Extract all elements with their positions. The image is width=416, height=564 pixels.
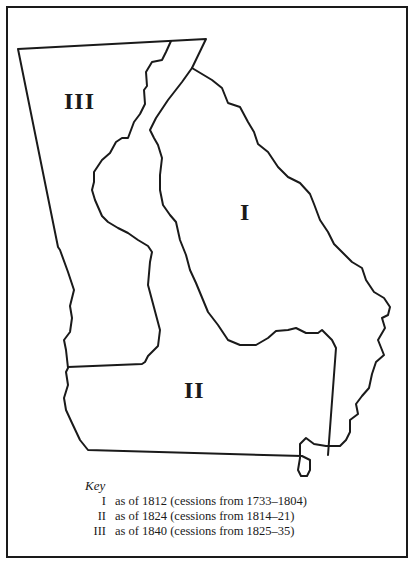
region-label-I: I	[240, 199, 250, 226]
key-numeral: II	[70, 509, 115, 524]
region-label-III: III	[64, 88, 95, 115]
key-description: as of 1812 (cessions from 1733–1804)	[115, 494, 307, 509]
region-label-II: II	[184, 377, 205, 404]
boundary-I-west	[150, 68, 336, 455]
key-item-III: III as of 1840 (cessions from 1825–35)	[70, 524, 307, 539]
key-description: as of 1824 (cessions from 1814–21)	[115, 509, 295, 524]
key-description: as of 1840 (cessions from 1825–35)	[115, 524, 295, 539]
key-item-II: II as of 1824 (cessions from 1814–21)	[70, 509, 307, 524]
key-title: Key	[85, 478, 307, 493]
key-item-I: I as of 1812 (cessions from 1733–1804)	[70, 494, 307, 509]
key-numeral: III	[70, 524, 115, 539]
map-key: Key I as of 1812 (cessions from 1733–180…	[70, 478, 307, 539]
key-numeral: I	[70, 494, 115, 509]
